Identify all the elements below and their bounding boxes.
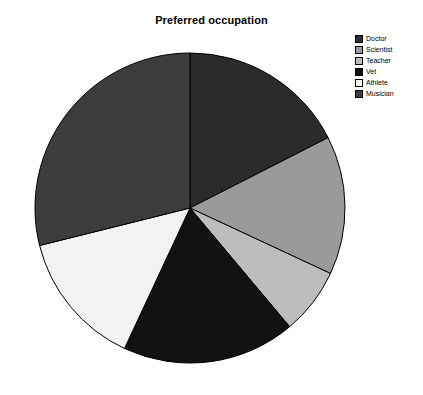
legend-swatch-scientist [355, 46, 363, 54]
legend-item-athlete: Athlete [355, 78, 423, 87]
legend-item-doctor: Doctor [355, 34, 423, 43]
pie-chart-figure: Preferred occupation DoctorScientistTeac… [0, 0, 423, 395]
legend-swatch-doctor [355, 35, 363, 43]
legend-item-teacher: Teacher [355, 56, 423, 65]
legend-swatch-musician [355, 90, 363, 98]
legend-swatch-teacher [355, 57, 363, 65]
legend-item-scientist: Scientist [355, 45, 423, 54]
legend-swatch-vet [355, 68, 363, 76]
legend-item-musician: Musician [355, 89, 423, 98]
pie-slice-group [35, 53, 345, 363]
legend-label: Athlete [366, 79, 388, 87]
legend-label: Scientist [366, 46, 392, 54]
legend-swatch-athlete [355, 79, 363, 87]
legend-label: Musician [366, 90, 394, 98]
legend-label: Vet [366, 68, 376, 76]
legend-label: Doctor [366, 35, 387, 43]
legend: DoctorScientistTeacherVetAthleteMusician [355, 34, 423, 99]
legend-item-vet: Vet [355, 67, 423, 76]
legend-label: Teacher [366, 57, 391, 65]
